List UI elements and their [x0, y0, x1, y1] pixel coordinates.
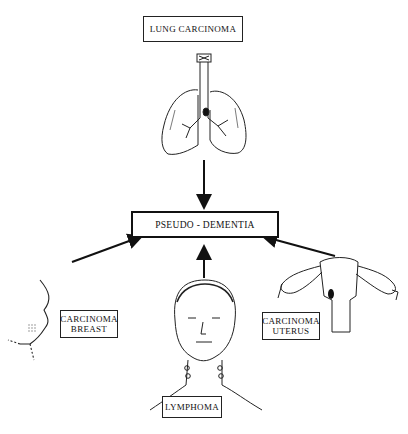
label-line-1: CARCINOMA: [262, 316, 320, 326]
lungs-icon: [162, 54, 246, 154]
label-line-1: CARCINOMA: [60, 314, 118, 324]
label-text: LYMPHOMA: [165, 402, 219, 412]
label-line-2: UTERUS: [273, 326, 310, 336]
label-text: PSEUDO - DEMENTIA: [155, 220, 255, 230]
head-neck-icon: [150, 280, 262, 410]
center-node-pseudo-dementia: PSEUDO - DEMENTIA: [131, 211, 279, 238]
label-line-2: BREAST: [71, 324, 107, 334]
label-text: LUNG CARCINOMA: [150, 24, 236, 34]
breast-icon: [8, 280, 49, 360]
label-carcinoma-uterus: CARCINOMA UTERUS: [262, 312, 320, 340]
arrow-breast-to-center: [72, 237, 140, 262]
arrow-uterus-to-center: [265, 237, 335, 256]
label-carcinoma-breast: CARCINOMA BREAST: [60, 310, 118, 338]
label-lymphoma: LYMPHOMA: [162, 396, 222, 418]
label-lung-carcinoma: LUNG CARCINOMA: [143, 16, 243, 42]
